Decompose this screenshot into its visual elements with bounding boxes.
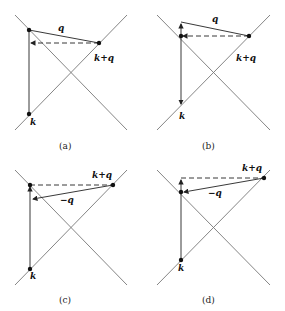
label-minus-q: −q [208, 188, 222, 198]
point-top [179, 190, 183, 194]
caption-b: (b) [202, 141, 215, 151]
label-k: k [30, 117, 36, 127]
point-kq [97, 41, 101, 45]
point-top [28, 183, 32, 187]
label-k-plus-q: k+q [92, 170, 112, 180]
panel-a: q k+q k (a) [0, 0, 142, 155]
point-kq [111, 183, 115, 187]
caption-a: (a) [59, 141, 71, 151]
diagram-c [0, 155, 142, 311]
diagram-a [0, 0, 142, 155]
label-k-plus-q: k+q [94, 53, 114, 63]
panel-c: k+q −q k (c) [0, 155, 142, 310]
point-top [179, 34, 183, 38]
label-minus-q: −q [60, 195, 74, 205]
point-kq [262, 176, 266, 180]
caption-c: (c) [59, 295, 71, 305]
vector-minus-q [184, 178, 264, 192]
label-k: k [178, 263, 184, 273]
label-k: k [30, 271, 36, 281]
point-top [27, 28, 31, 32]
label-q: q [58, 23, 64, 33]
point-k [27, 112, 31, 116]
diagram-d [142, 155, 285, 311]
point-k [179, 258, 183, 262]
label-k: k [179, 111, 185, 121]
caption-d: (d) [202, 295, 215, 305]
panel-d: k+q −q k (d) [142, 155, 284, 310]
label-q: q [212, 14, 218, 24]
point-kq [247, 34, 251, 38]
vector-q [181, 22, 249, 36]
label-k-plus-q: k+q [236, 53, 256, 63]
label-k-plus-q: k+q [242, 163, 262, 173]
panel-b: q k+q k (b) [142, 0, 284, 155]
